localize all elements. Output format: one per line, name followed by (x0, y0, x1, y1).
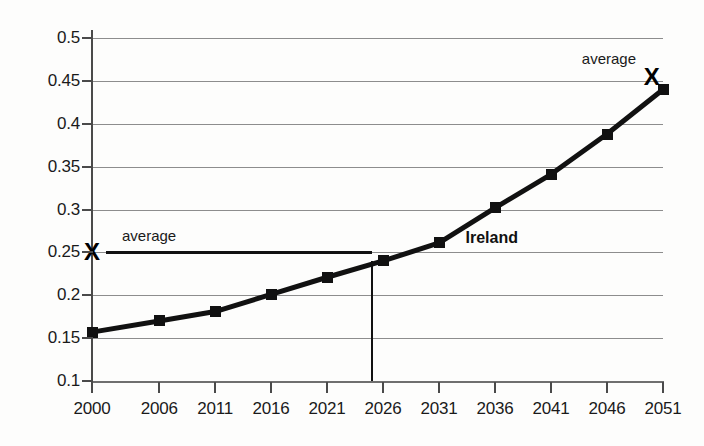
y-axis-tick-0.1 (82, 380, 93, 382)
average-label-left: average (122, 227, 176, 244)
y-axis-tick-0.5 (82, 37, 93, 39)
chart-page: 0.10.150.20.250.30.350.40.450.5 20002006… (0, 0, 704, 446)
y-axis-tick-0.35 (82, 166, 93, 168)
average-label-right: average (582, 50, 636, 67)
y-axis-tick-0.4 (82, 123, 93, 125)
y-axis-tick-0.3 (82, 209, 93, 211)
average-line-left (106, 251, 372, 254)
y-axis-tick-0.2 (82, 294, 93, 296)
series-line-ireland (0, 0, 704, 446)
y-axis-tick-0.15 (82, 337, 93, 339)
series-label-ireland: Ireland (465, 229, 517, 247)
average-x-marker-right: X (644, 65, 660, 89)
y-axis-tick-0.25 (82, 251, 93, 253)
y-axis-tick-0.45 (82, 80, 93, 82)
reference-drop-line (371, 261, 373, 381)
